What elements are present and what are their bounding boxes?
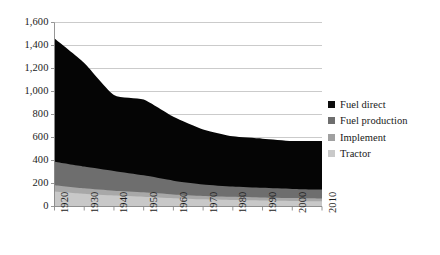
y-tick-label: 1,600 (24, 16, 48, 27)
x-tick-label: 1930 (89, 191, 100, 212)
y-tick-label: 200 (32, 177, 48, 188)
y-tick-label: 1,200 (24, 62, 48, 73)
area-series-group (55, 39, 323, 207)
legend-item[interactable]: Tractor (328, 146, 436, 163)
y-tick-label: 800 (32, 108, 48, 119)
legend-swatch-icon (328, 134, 335, 141)
legend-swatch-icon (328, 117, 335, 124)
legend-label: Implement (340, 132, 386, 143)
legend-label: Tractor (340, 148, 371, 159)
legend-item[interactable]: Fuel direct (328, 96, 436, 113)
y-tick-label: 400 (32, 154, 48, 165)
y-tick-label: 600 (32, 131, 48, 142)
legend-swatch-icon (328, 150, 335, 157)
x-tick-label: 2010 (327, 191, 338, 212)
x-tick-label: 1940 (118, 191, 129, 212)
x-tick-label: 1980 (237, 191, 248, 212)
chart-figure: 02004006008001,0001,2001,4001,600 192019… (0, 0, 440, 255)
legend-item[interactable]: Fuel production (328, 113, 436, 130)
x-tick-label: 1990 (267, 191, 278, 212)
x-tick-label: 1950 (148, 191, 159, 212)
legend-label: Fuel direct (340, 99, 386, 110)
x-tick-label: 2000 (297, 191, 308, 212)
legend-item[interactable]: Implement (328, 129, 436, 146)
legend-swatch-icon (328, 101, 335, 108)
chart-legend: Fuel directFuel productionImplementTract… (328, 96, 436, 162)
x-tick-label: 1960 (178, 191, 189, 212)
x-tick-label: 1920 (59, 191, 70, 212)
y-tick-label: 1,400 (24, 39, 48, 50)
x-tick-label: 1970 (208, 191, 219, 212)
legend-label: Fuel production (340, 115, 408, 126)
y-tick-label: 0 (43, 200, 48, 211)
y-tick-label: 1,000 (24, 85, 48, 96)
